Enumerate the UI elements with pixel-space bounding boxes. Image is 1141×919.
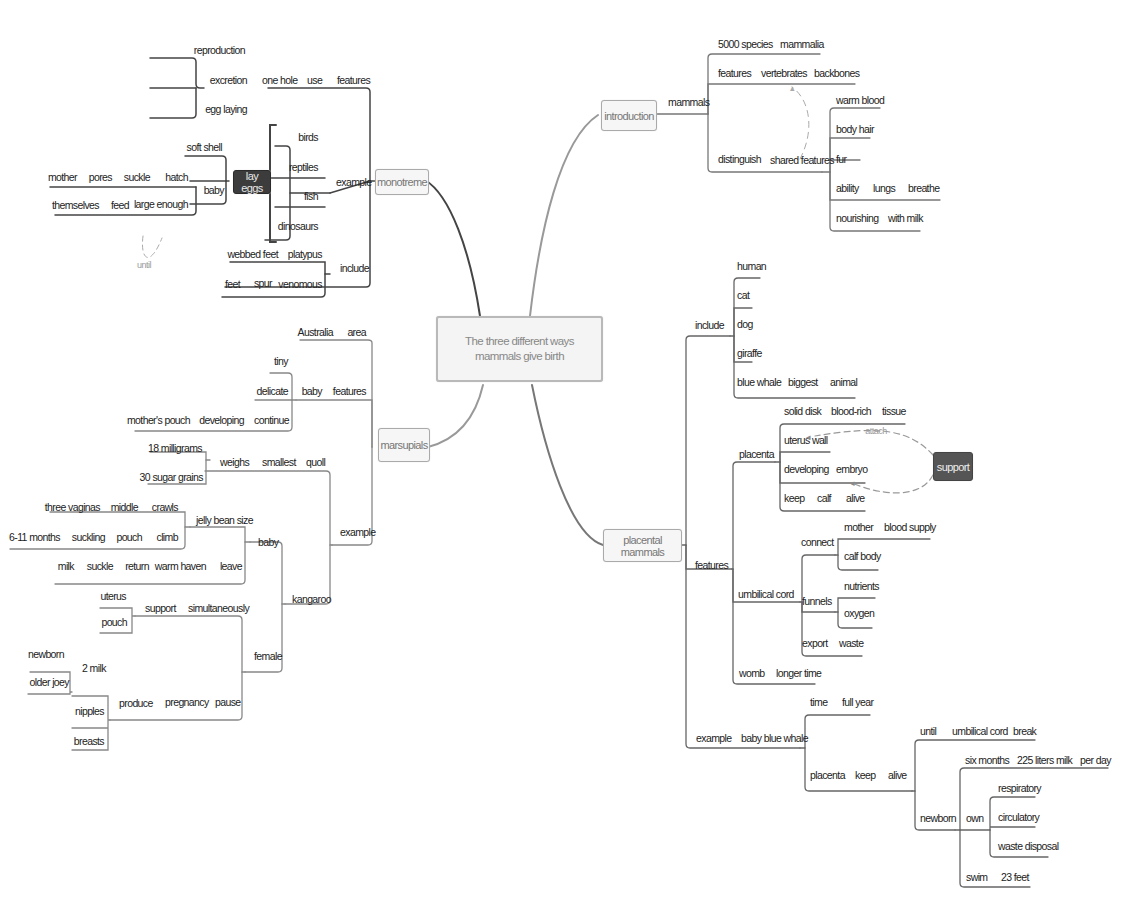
node[interactable]: connect xyxy=(801,536,834,548)
node[interactable]: suckle xyxy=(124,171,150,183)
branch-monotreme[interactable]: monotreme xyxy=(375,169,429,195)
node[interactable]: features xyxy=(337,74,370,86)
node[interactable]: quoll xyxy=(306,456,325,468)
node[interactable]: funnels xyxy=(802,595,832,607)
node[interactable]: feet xyxy=(225,278,240,290)
node[interactable]: pouch xyxy=(116,531,142,543)
node[interactable]: baby xyxy=(302,385,322,397)
node[interactable]: giraffe xyxy=(737,347,762,359)
node[interactable]: suckle xyxy=(87,560,113,572)
node[interactable]: 2 milk xyxy=(82,662,106,674)
node[interactable]: distinguish xyxy=(718,153,761,165)
node[interactable]: include xyxy=(340,262,369,274)
node[interactable]: reproduction xyxy=(194,44,245,56)
node[interactable]: oxygen xyxy=(844,607,874,619)
node[interactable]: longer time xyxy=(776,667,821,679)
node[interactable]: lungs xyxy=(873,182,895,194)
node[interactable]: one hole xyxy=(262,74,298,86)
node[interactable]: tiny xyxy=(274,355,288,367)
node[interactable]: crawls xyxy=(152,501,178,513)
node[interactable]: simultaneously xyxy=(188,602,249,614)
node[interactable]: birds xyxy=(298,131,318,143)
node[interactable]: suckling xyxy=(72,531,105,543)
node[interactable]: placenta xyxy=(810,769,845,781)
node[interactable]: example xyxy=(340,526,376,538)
node[interactable]: fur xyxy=(836,153,846,165)
node[interactable]: export xyxy=(802,637,828,649)
node[interactable]: own xyxy=(966,812,983,824)
node[interactable]: umbilical cord xyxy=(952,725,1008,737)
node[interactable]: Australia xyxy=(298,326,333,338)
node[interactable]: platypus xyxy=(288,248,322,260)
node[interactable]: smallest xyxy=(262,456,296,468)
branch-placental-mammals[interactable]: placental mammals xyxy=(603,529,682,562)
node[interactable]: baby xyxy=(258,536,278,548)
node[interactable]: 30 sugar grains xyxy=(140,471,203,483)
node[interactable]: three vaginas xyxy=(45,501,100,513)
node[interactable]: six months xyxy=(965,754,1009,766)
node[interactable]: area xyxy=(347,326,366,338)
node[interactable]: continue xyxy=(254,414,289,426)
node[interactable]: baby blue whale xyxy=(741,732,808,744)
node[interactable]: cat xyxy=(737,289,749,301)
node[interactable]: weighs xyxy=(220,456,249,468)
node[interactable]: female xyxy=(254,650,282,662)
node[interactable]: 6-11 months xyxy=(9,531,60,543)
node[interactable]: time xyxy=(810,696,827,708)
node[interactable]: waste xyxy=(839,637,863,649)
node[interactable]: circulatory xyxy=(998,811,1039,823)
node[interactable]: produce xyxy=(119,697,153,709)
node[interactable]: developing xyxy=(784,463,829,475)
node[interactable]: features xyxy=(695,559,728,571)
node[interactable]: animal xyxy=(830,376,857,388)
node[interactable]: blue whale xyxy=(737,376,781,388)
branch-introduction[interactable]: introduction xyxy=(601,100,657,131)
node[interactable]: pouch xyxy=(101,616,127,628)
node[interactable]: breasts xyxy=(74,735,104,747)
node[interactable]: warm haven xyxy=(155,560,206,572)
node[interactable]: support xyxy=(145,602,176,614)
node[interactable]: keep xyxy=(784,492,804,504)
node[interactable]: respiratory xyxy=(998,782,1041,794)
node[interactable]: until xyxy=(920,725,936,737)
node[interactable]: alive xyxy=(888,769,907,781)
node[interactable]: middle xyxy=(111,501,138,513)
node[interactable]: body hair xyxy=(836,123,874,135)
node[interactable]: venomous xyxy=(278,278,322,290)
node[interactable]: use xyxy=(307,74,322,86)
node[interactable]: kangaroo xyxy=(292,593,331,605)
node[interactable]: placenta xyxy=(739,448,774,460)
node[interactable]: nourishing xyxy=(836,212,878,224)
node[interactable]: 5000 species xyxy=(718,38,773,50)
node[interactable]: 23 feet xyxy=(1001,871,1029,883)
node[interactable]: uterus xyxy=(100,590,126,602)
node[interactable]: baby xyxy=(204,184,224,196)
node[interactable]: nutrients xyxy=(844,580,879,592)
node[interactable]: mammals xyxy=(668,96,709,108)
node[interactable]: feed xyxy=(111,199,129,211)
node-lay-eggs[interactable]: lay eggs xyxy=(233,170,271,194)
node[interactable]: excretion xyxy=(210,74,247,86)
node[interactable]: mother xyxy=(844,521,873,533)
node[interactable]: newborn xyxy=(920,812,956,824)
node[interactable]: jelly bean size xyxy=(196,514,253,526)
node[interactable]: dog xyxy=(737,318,753,330)
node[interactable]: pregnancy xyxy=(165,696,209,708)
node[interactable]: example xyxy=(336,176,372,188)
node[interactable]: calf body xyxy=(844,550,881,562)
node[interactable]: vertebrates xyxy=(761,67,807,79)
node[interactable]: solid disk xyxy=(784,405,821,417)
node[interactable]: tissue xyxy=(882,405,906,417)
node[interactable]: backbones xyxy=(814,67,859,79)
node[interactable]: webbed feet xyxy=(227,248,278,260)
node[interactable]: pause xyxy=(215,696,241,708)
node[interactable]: shared features xyxy=(770,154,834,166)
node[interactable]: swim xyxy=(966,871,988,883)
node[interactable]: breathe xyxy=(908,182,939,194)
node[interactable]: delicate xyxy=(257,385,288,397)
node[interactable]: mother xyxy=(48,171,77,183)
node[interactable]: umbilical cord xyxy=(738,588,794,600)
node[interactable]: climb xyxy=(156,531,178,543)
node[interactable]: waste disposal xyxy=(998,840,1058,852)
branch-marsupials[interactable]: marsupials xyxy=(378,428,430,462)
